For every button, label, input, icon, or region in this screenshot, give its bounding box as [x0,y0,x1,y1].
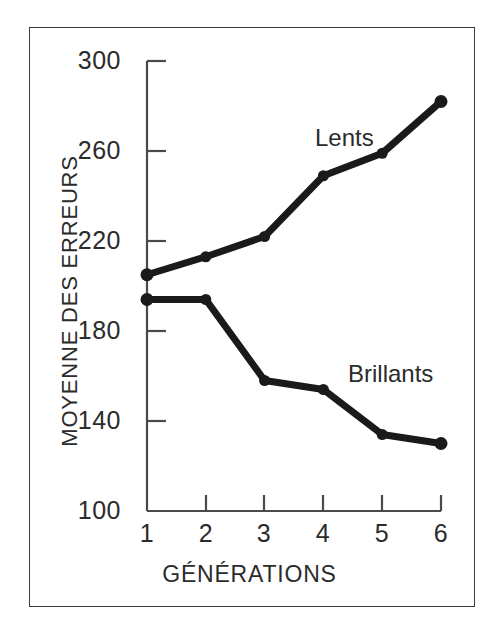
data-point [259,231,270,242]
y-tick-label-100: 100 [41,496,121,525]
data-point [200,294,211,305]
data-point [200,251,211,262]
data-point [141,293,154,306]
x-tick-label-1: 1 [127,519,167,548]
chart-figure: 300 260 220 180 140 100 1 2 3 4 5 6 GÉNÉ… [0,0,499,633]
x-tick-label-3: 3 [244,519,284,548]
data-series-layer [141,95,448,450]
data-point [318,384,329,395]
series-label-brillants: Brillants [348,360,433,388]
y-axis-title: MOYENNE DES ERREURS [57,136,83,466]
x-tick-label-4: 4 [303,519,343,548]
data-point [435,95,448,108]
x-tick-label-6: 6 [421,519,461,548]
data-point [377,429,388,440]
series-label-lents: Lents [315,124,374,152]
data-point [377,148,388,159]
series-line-lents [147,102,441,275]
x-tick-label-2: 2 [186,519,226,548]
x-tick-label-5: 5 [362,519,402,548]
x-axis-title: GÉNÉRATIONS [0,561,499,588]
data-point [318,170,329,181]
data-point [259,375,270,386]
data-point [435,437,448,450]
data-point [141,268,154,281]
y-tick-label-300: 300 [41,46,121,75]
